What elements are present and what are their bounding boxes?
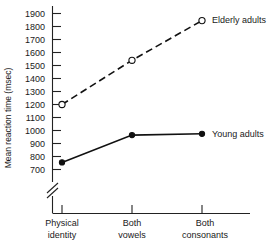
data-point-young-both-vowels: [129, 133, 134, 138]
y-tick-label-1800: 1800: [25, 22, 45, 32]
y-tick-label-1400: 1400: [25, 74, 45, 84]
line-chart: Mean reaction time (msec) 1900 1800 1700…: [0, 0, 272, 241]
chart-canvas: Mean reaction time (msec) 1900 1800 1700…: [0, 0, 272, 241]
x-category-label-2-line1: Both: [123, 218, 142, 228]
y-axis-title: Mean reaction time (msec): [3, 68, 13, 169]
axis-break-icon: [47, 183, 58, 198]
series-label-elderly-adults: Elderly adults: [212, 15, 267, 25]
data-point-elderly-both-consonants: [199, 18, 205, 24]
x-category-label-1-line1: Physical: [45, 218, 79, 228]
y-tick-label-1700: 1700: [25, 35, 45, 45]
data-point-elderly-physical-identity: [59, 101, 65, 107]
y-tick-label-800: 800: [30, 152, 45, 162]
data-point-young-both-consonants: [199, 131, 204, 136]
y-tick-label-900: 900: [30, 139, 45, 149]
y-tick-label-1100: 1100: [26, 113, 45, 123]
x-category-label-3-line2: consonants: [182, 230, 229, 240]
data-point-elderly-both-vowels: [129, 57, 135, 63]
y-tick-label-1900: 1900: [25, 9, 45, 19]
x-category-label-2-line2: vowels: [118, 230, 146, 240]
x-tick-marks: [62, 205, 202, 214]
x-category-label-1-line2: identity: [48, 230, 77, 240]
y-tick-label-1000: 1000: [25, 126, 45, 136]
y-tick-label-700: 700: [30, 165, 45, 175]
y-tick-label-1200: 1200: [25, 100, 45, 110]
series-label-young-adults: Young adults: [212, 129, 264, 139]
y-tick-label-1300: 1300: [25, 87, 45, 97]
x-category-label-3-line1: Both: [196, 218, 215, 228]
y-tick-label-1600: 1600: [25, 48, 45, 58]
y-tick-marks: [53, 14, 62, 170]
data-point-young-physical-identity: [59, 160, 64, 165]
y-tick-label-1500: 1500: [25, 61, 45, 71]
